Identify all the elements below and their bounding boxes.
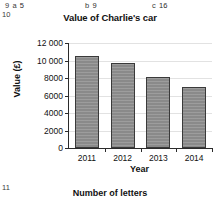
annotation-part-c: c16: [152, 1, 168, 10]
x-tick-label-2012: 2012: [113, 153, 132, 163]
part-c-answer: 16: [159, 1, 168, 10]
question-9-number: 9: [5, 1, 9, 10]
x-axis-label: Year: [68, 164, 211, 174]
bar-2013: [146, 77, 170, 148]
bars-group: [69, 43, 212, 148]
part-c-label: c: [152, 1, 156, 10]
y-tick-label: 6000: [44, 91, 63, 101]
x-tick-mark: [212, 148, 213, 152]
question-9-part-a-answer: 5: [20, 1, 24, 10]
y-tick-mark: [65, 148, 69, 149]
y-tick-label: 0: [58, 143, 63, 153]
y-tick-label: 10 000: [37, 56, 63, 66]
bar-2012: [111, 63, 135, 148]
chart-plot-wrapper: Value (£) 0200040006000800010 00012 000 …: [0, 12, 220, 180]
x-tick-label-2014: 2014: [185, 153, 204, 163]
bar-2011: [75, 56, 99, 148]
x-tick-mark: [141, 148, 142, 152]
y-tick-label: 12 000: [37, 38, 63, 48]
part-b-label: b: [85, 1, 89, 10]
y-tick-label: 8000: [44, 73, 63, 83]
question-9-part-a-label: a: [12, 1, 16, 10]
annotation-question-9: 9a5: [5, 1, 24, 10]
y-tick-label: 4000: [44, 108, 63, 118]
bar-chart: Value of Charlie's car Value (£) 0200040…: [0, 12, 220, 180]
plot-area: 0200040006000800010 00012 000 2011201220…: [68, 43, 212, 149]
y-axis-label: Value (£): [12, 44, 22, 114]
annotation-part-b: b9: [85, 1, 97, 10]
y-tick-label: 2000: [44, 126, 63, 136]
x-tick-mark: [176, 148, 177, 152]
x-tick-label-2013: 2013: [149, 153, 168, 163]
bar-2014: [182, 87, 206, 148]
x-tick-label-2011: 2011: [78, 153, 96, 163]
next-question-heading: Number of letters: [0, 188, 220, 197]
part-b-answer: 9: [92, 1, 96, 10]
x-tick-mark: [105, 148, 106, 152]
